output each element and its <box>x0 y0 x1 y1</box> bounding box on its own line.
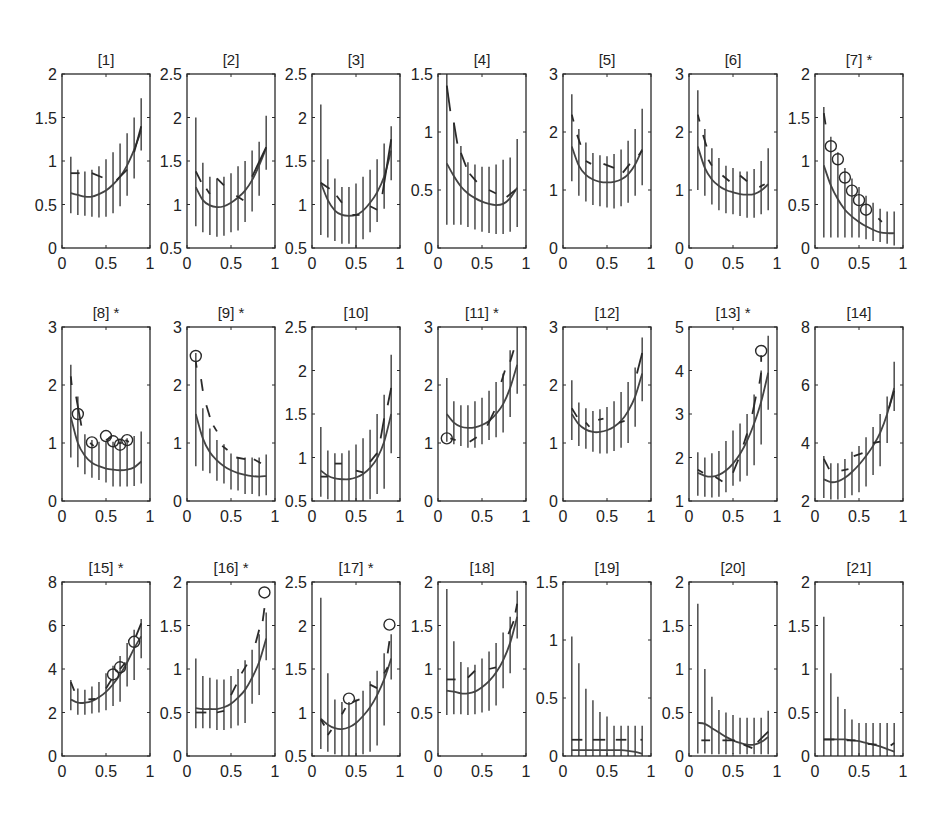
plot-area <box>196 608 266 730</box>
y-tick-label: 2 <box>173 574 182 591</box>
x-tick-label: 1 <box>271 255 280 272</box>
panel-1: [1]00.511.5200.51 <box>35 51 155 272</box>
x-tick-label: 1 <box>522 255 531 272</box>
panel-7: [7] *00.511.5200.51 <box>788 51 908 272</box>
panel-15: [15] *0246800.51 <box>48 559 154 780</box>
x-tick-label: 0 <box>685 255 694 272</box>
observed-dash <box>125 440 129 442</box>
y-tick-label: 1.5 <box>662 618 684 635</box>
x-tick-label: 0 <box>811 508 820 525</box>
y-tick-label: 1 <box>298 197 307 214</box>
y-tick-label: 1.5 <box>285 661 307 678</box>
panel-19: [19]00.511.500.51 <box>536 559 656 780</box>
x-tick-label: 0.5 <box>345 508 367 525</box>
panel-title: [16] * <box>213 559 248 576</box>
panel-title: [20] <box>720 559 745 576</box>
axes-box <box>62 582 150 756</box>
panel-title: [6] <box>725 51 742 68</box>
y-tick-label: 2.5 <box>285 66 307 83</box>
y-tick-label: 0 <box>675 240 684 257</box>
panel-5: [5]012300.51 <box>549 51 655 272</box>
x-tick-label: 1 <box>647 763 656 780</box>
y-tick-label: 0 <box>424 240 433 257</box>
observed-dash <box>201 379 203 391</box>
y-tick-label: 6 <box>48 618 57 635</box>
y-tick-label: 0 <box>801 748 810 765</box>
panel-title: [5] <box>599 51 616 68</box>
observed-dash <box>868 744 877 745</box>
x-tick-label: 1 <box>899 508 908 525</box>
x-tick-label: 0.5 <box>596 255 618 272</box>
x-tick-label: 0.5 <box>596 763 618 780</box>
y-tick-label: 4 <box>801 435 810 452</box>
x-tick-label: 1 <box>647 255 656 272</box>
y-tick-label: 3 <box>549 319 558 336</box>
x-tick-label: 0 <box>811 255 820 272</box>
y-tick-label: 1.5 <box>411 618 433 635</box>
panel-title: [8] * <box>93 304 120 321</box>
y-tick-label: 2 <box>801 574 810 591</box>
y-tick-label: 0.5 <box>788 197 810 214</box>
plot-area <box>572 337 642 453</box>
y-tick-label: 2 <box>48 66 57 83</box>
y-tick-label: 1 <box>675 182 684 199</box>
y-tick-label: 2 <box>173 377 182 394</box>
observed-dash <box>370 685 377 688</box>
x-tick-label: 0 <box>559 255 568 272</box>
axes-box <box>187 582 275 756</box>
y-tick-label: 0 <box>801 240 810 257</box>
outlier-circle-marker <box>384 619 395 630</box>
observed-dash <box>854 453 863 456</box>
panel-20: [20]00.511.5200.51 <box>662 559 782 780</box>
x-tick-label: 0.5 <box>220 508 242 525</box>
y-tick-label: 0 <box>173 748 182 765</box>
y-tick-label: 2 <box>549 124 558 141</box>
y-tick-label: 8 <box>801 319 810 336</box>
y-tick-label: 6 <box>801 377 810 394</box>
x-tick-label: 0.5 <box>722 763 744 780</box>
panel-2: [2]0.511.522.500.51 <box>160 51 280 272</box>
y-tick-label: 1 <box>801 661 810 678</box>
y-tick-label: 4 <box>675 363 684 380</box>
y-tick-label: 1 <box>48 435 57 452</box>
observed-dash <box>356 471 363 473</box>
y-tick-label: 2 <box>801 66 810 83</box>
x-tick-label: 1 <box>146 763 155 780</box>
x-tick-label: 0 <box>58 255 67 272</box>
y-tick-label: 2 <box>801 493 810 510</box>
x-tick-label: 0.5 <box>848 763 870 780</box>
x-tick-label: 1 <box>773 508 782 525</box>
x-tick-label: 0.5 <box>722 508 744 525</box>
observed-dash <box>90 443 94 446</box>
plot-area <box>321 104 391 248</box>
panel-3: [3]0.511.522.500.51 <box>285 51 405 272</box>
plot-area <box>824 107 894 245</box>
plot-area <box>447 589 517 715</box>
plot-area <box>321 355 391 506</box>
x-tick-label: 0.5 <box>345 255 367 272</box>
y-tick-label: 1 <box>675 661 684 678</box>
x-tick-label: 0 <box>685 763 694 780</box>
y-tick-label: 2 <box>173 110 182 127</box>
y-tick-label: 1.5 <box>285 153 307 170</box>
x-tick-label: 0.5 <box>596 508 618 525</box>
x-tick-label: 0 <box>308 763 317 780</box>
y-tick-label: 2.5 <box>285 319 307 336</box>
x-tick-label: 0.5 <box>220 255 242 272</box>
panel-title: [3] <box>348 51 365 68</box>
x-tick-label: 0 <box>434 763 443 780</box>
y-tick-label: 0 <box>424 748 433 765</box>
observed-dash <box>740 176 747 182</box>
x-tick-label: 0.5 <box>95 763 117 780</box>
y-tick-label: 1.5 <box>536 574 558 591</box>
y-tick-label: 0.5 <box>160 240 182 257</box>
x-tick-label: 1 <box>773 255 782 272</box>
x-tick-label: 1 <box>899 255 908 272</box>
observed-dash <box>222 446 227 450</box>
panel-title: [18] <box>469 559 494 576</box>
panel-title: [2] <box>223 51 240 68</box>
panel-16: [16] *00.511.5200.51 <box>160 559 280 780</box>
panel-title: [13] * <box>715 304 750 321</box>
y-tick-label: 0.5 <box>285 240 307 257</box>
x-tick-label: 0.5 <box>722 255 744 272</box>
